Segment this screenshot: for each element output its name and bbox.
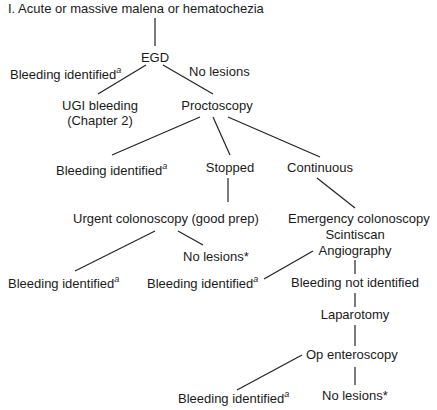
node-emergency-colonoscopy: Emergency colonoscopy [288,211,430,226]
footnote-marker: a [114,274,119,284]
node-angiography: Angiography [312,243,398,258]
flowchart: I. Acute or massive malena or hematochez… [0,0,437,410]
footnote-marker: a [116,65,121,75]
node-egd-bleeding-identified: Bleeding identifieda [10,64,121,82]
node-op-no-lesions: No lesions* [322,388,388,403]
node-urgent-colonoscopy: Urgent colonoscopy (good prep) [73,211,259,226]
node-scintiscan: Scintiscan [315,227,395,242]
node-proctoscopy-bleeding-identified: Bleeding identifieda [56,160,167,178]
footnote-marker: a [284,389,289,399]
diagram-title: I. Acute or massive malena or hematochez… [8,1,264,16]
node-op-enteroscopy: Op enteroscopy [306,347,398,362]
node-stopped: Stopped [200,160,260,175]
node-proctoscopy: Proctoscopy [172,98,262,113]
node-angiography-bleeding-identified: Bleeding identifieda [147,273,258,291]
node-laparotomy: Laparotomy [310,307,400,322]
node-bleeding-not-identified: Bleeding not identified [291,275,419,290]
node-urgent-bleeding-identified: Bleeding identifieda [8,273,119,291]
node-continuous: Continuous [280,160,360,175]
node-ugi-bleeding: UGI bleeding (Chapter 2) [50,98,150,128]
node-op-bleeding-identified: Bleeding identifieda [178,388,289,406]
footnote-marker: a [253,274,258,284]
node-urgent-no-lesions: No lesions* [183,249,249,264]
node-egd: EGD [138,50,172,65]
footnote-marker: a [162,161,167,171]
node-egd-no-lesions: No lesions [189,64,250,79]
